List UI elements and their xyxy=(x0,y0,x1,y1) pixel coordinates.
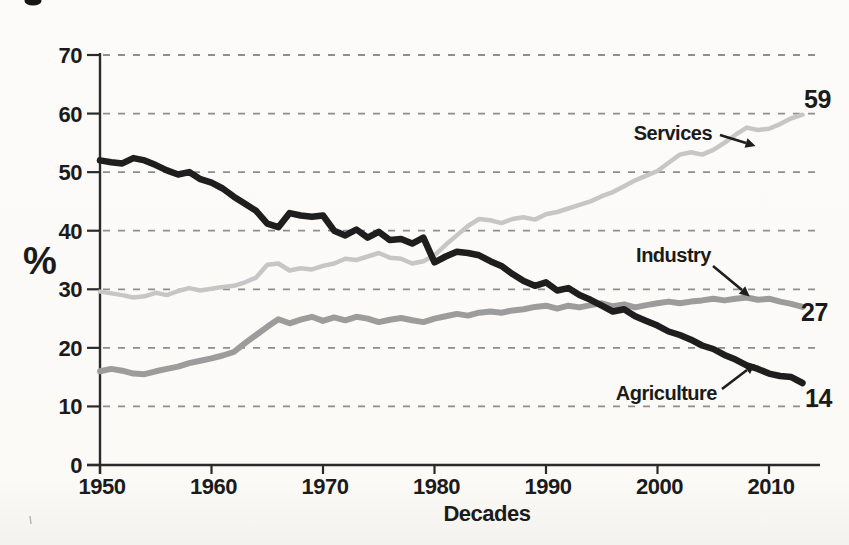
y-tick-label-70: 70 xyxy=(59,43,83,68)
employment-sectors-line-chart: 010203040506070 195019601970198019902000… xyxy=(0,0,849,545)
annotation-arrowhead-services xyxy=(745,138,756,148)
annotation-label-agriculture: Agriculture xyxy=(616,382,718,404)
y-tick-label-50: 50 xyxy=(59,160,83,185)
annotation-arrow-line-agriculture xyxy=(722,370,747,389)
chart-page: 010203040506070 195019601970198019902000… xyxy=(0,0,849,545)
scan-speck xyxy=(30,516,31,524)
x-tick-label-2010: 2010 xyxy=(748,474,795,499)
y-axis-ticks: 010203040506070 xyxy=(59,43,100,478)
y-tick-label-60: 60 xyxy=(59,102,83,127)
x-axis-ticks: 1950196019701980199020002010 xyxy=(79,465,795,499)
annotation-label-industry: Industry xyxy=(636,244,712,266)
x-tick-label-1960: 1960 xyxy=(190,474,237,499)
x-tick-label-1970: 1970 xyxy=(302,474,349,499)
end-value-label-industry: 27 xyxy=(801,298,828,326)
x-tick-label-2000: 2000 xyxy=(636,474,683,499)
series-annotations: ServicesIndustryAgriculture592714 xyxy=(616,85,833,412)
y-tick-label-20: 20 xyxy=(59,336,83,361)
x-axis-title: Decades xyxy=(443,501,530,526)
annotation-label-services: Services xyxy=(634,122,713,144)
x-tick-label-1990: 1990 xyxy=(525,474,572,499)
y-tick-label-40: 40 xyxy=(59,219,83,244)
end-value-label-services: 59 xyxy=(804,85,831,113)
x-tick-label-1980: 1980 xyxy=(413,474,460,499)
y-tick-label-10: 10 xyxy=(59,394,83,419)
y-axis-title: % xyxy=(23,240,57,282)
annotation-arrow-line-industry xyxy=(713,266,742,290)
x-tick-label-1950: 1950 xyxy=(79,474,126,499)
end-value-label-agriculture: 14 xyxy=(805,384,832,412)
series-line-industry xyxy=(100,298,803,375)
y-tick-label-30: 30 xyxy=(59,277,83,302)
scan-artifact-cropped-glyph xyxy=(25,0,42,6)
series-line-agriculture xyxy=(100,158,803,383)
